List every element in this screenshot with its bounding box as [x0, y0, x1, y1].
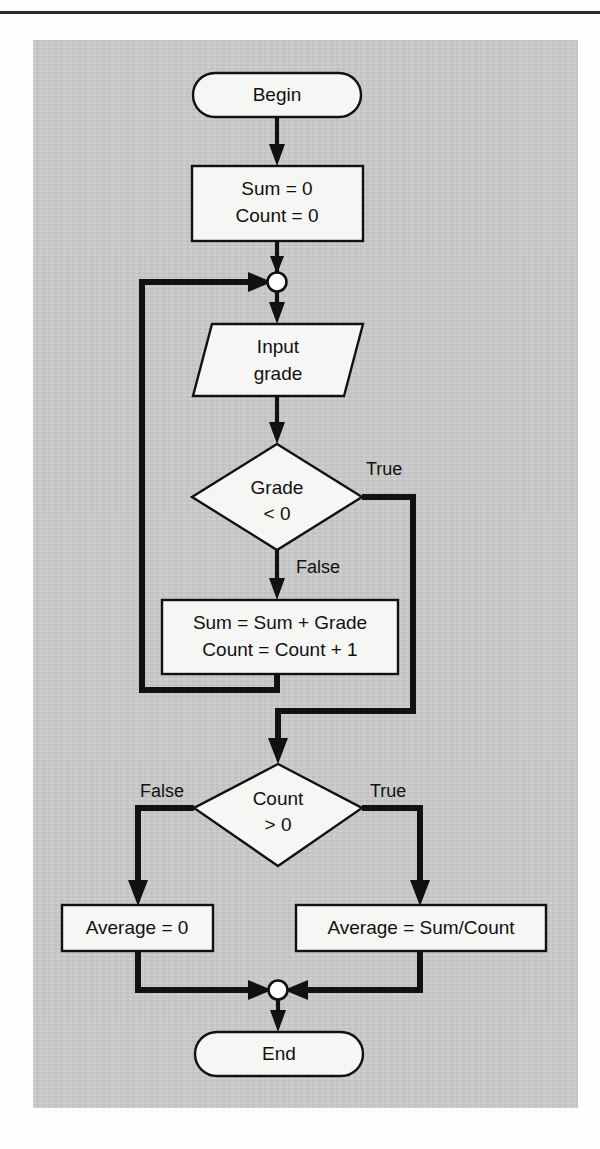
node-accumulate-line1: Sum = Sum + Grade: [193, 612, 367, 633]
edge-average-zero-to-end-merge: [138, 950, 272, 1000]
node-decision-grade[interactable]: Grade < 0: [192, 444, 362, 550]
node-decision-count-line2: > 0: [265, 814, 292, 835]
node-loop-merge-connector[interactable]: [268, 273, 287, 292]
node-input-grade[interactable]: Input grade: [193, 324, 363, 396]
edge-count-false-path: [128, 808, 194, 906]
node-end-merge-connector[interactable]: [269, 981, 288, 1000]
node-accumulate[interactable]: Sum = Sum + Grade Count = Count + 1: [162, 600, 398, 674]
node-decision-grade-line2: < 0: [264, 503, 291, 524]
edge-begin-to-init: [269, 116, 285, 166]
edge-init-to-merge: [270, 240, 284, 274]
node-decision-grade-line1: Grade: [251, 477, 304, 498]
branch-label-count-false: False: [140, 781, 184, 801]
node-init[interactable]: Sum = 0 Count = 0: [192, 166, 363, 241]
node-average-zero[interactable]: Average = 0: [62, 905, 213, 951]
node-begin[interactable]: Begin: [193, 73, 361, 117]
node-init-line2: Count = 0: [236, 205, 319, 226]
node-input-line1: Input: [257, 336, 300, 357]
edge-end-merge-to-end: [270, 1000, 286, 1032]
branch-label-grade-true: True: [366, 459, 402, 479]
edge-average-calc-to-end-merge: [284, 950, 420, 1000]
edge-count-true-path: [362, 808, 430, 906]
node-decision-count-line1: Count: [253, 788, 304, 809]
node-init-line1: Sum = 0: [241, 178, 312, 199]
flowchart-canvas: Begin Sum = 0 Count = 0 Input grade Grad…: [0, 0, 600, 1149]
edge-grade-false-to-accumulate: [269, 550, 285, 600]
edge-merge-to-input: [269, 292, 285, 324]
node-average-calc-label: Average = Sum/Count: [327, 917, 515, 938]
node-average-calc[interactable]: Average = Sum/Count: [296, 905, 546, 951]
node-accumulate-line2: Count = Count + 1: [202, 639, 357, 660]
node-end[interactable]: End: [195, 1032, 363, 1076]
node-decision-count[interactable]: Count > 0: [194, 764, 362, 866]
edge-input-to-decision-grade: [269, 396, 285, 444]
branch-label-count-true: True: [370, 781, 406, 801]
node-average-zero-label: Average = 0: [86, 917, 189, 938]
node-end-label: End: [262, 1043, 296, 1064]
node-begin-label: Begin: [253, 84, 302, 105]
node-input-line2: grade: [254, 363, 303, 384]
branch-label-grade-false: False: [296, 557, 340, 577]
figure-page: Begin Sum = 0 Count = 0 Input grade Grad…: [0, 0, 600, 1149]
